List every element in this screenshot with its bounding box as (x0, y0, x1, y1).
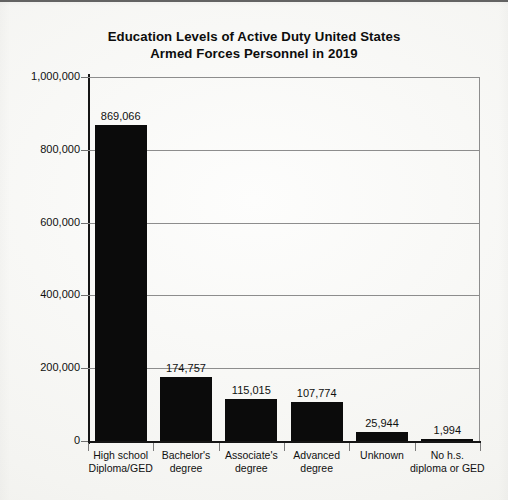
y-axis-tick-label: 800,000 (2, 144, 80, 155)
gridline (88, 223, 480, 224)
plot-frame (88, 77, 480, 441)
bar-value-label: 174,757 (153, 363, 218, 374)
bar (160, 377, 212, 441)
y-axis-tick-mark (81, 441, 88, 442)
y-axis-labels: 1,000,000800,000600,000400,000200,0000 (0, 0, 80, 500)
bar-value-label: 1,994 (415, 425, 480, 436)
plot-area: 869,066174,757115,015107,77425,9441,994 (88, 77, 480, 441)
bar-value-label: 115,015 (219, 385, 284, 396)
y-axis-tick-label: 200,000 (2, 362, 80, 373)
bar-value-label: 107,774 (284, 388, 349, 399)
bar-value-label: 869,066 (88, 111, 153, 122)
x-axis-category-label-line: diploma or GED (409, 462, 486, 475)
y-axis-tick-label: 400,000 (2, 289, 80, 300)
y-axis-tick-mark (81, 368, 88, 369)
y-axis-tick-label: 0 (2, 435, 80, 446)
x-axis-category-label-line: No h.s. (409, 449, 486, 462)
bar-value-label: 25,944 (349, 418, 414, 429)
gridline (88, 368, 480, 369)
gridline (88, 77, 480, 78)
y-axis-tick-mark (81, 150, 88, 151)
x-axis-category-label-line: degree (278, 462, 355, 475)
gridline (88, 295, 480, 296)
bar (291, 402, 343, 441)
bar (421, 439, 473, 441)
gridline (88, 150, 480, 151)
bar (356, 432, 408, 441)
y-axis-tick-label: 600,000 (2, 217, 80, 228)
bar (95, 125, 147, 441)
bar (225, 399, 277, 441)
y-axis-tick-label: 1,000,000 (2, 71, 80, 82)
y-axis-tick-mark (81, 77, 88, 78)
x-axis-category-label: No h.s.diploma or GED (409, 449, 486, 474)
y-axis-tick-mark (81, 295, 88, 296)
y-axis-tick-mark (81, 223, 88, 224)
